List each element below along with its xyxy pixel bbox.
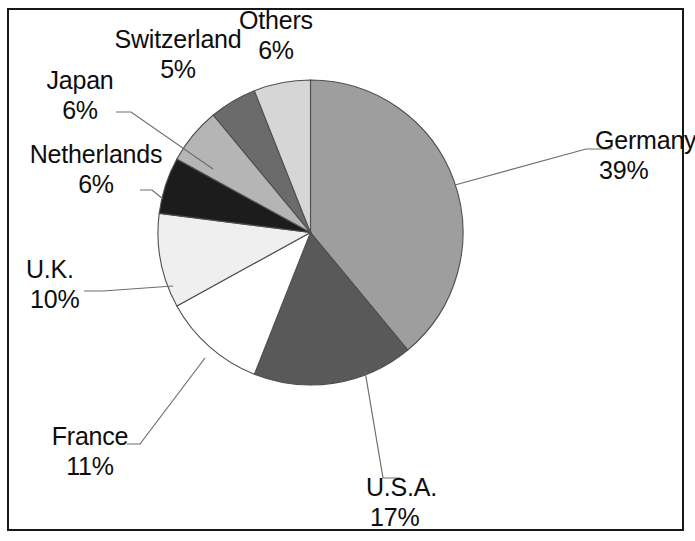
pie-label-usa-name: U.S.A. [366, 473, 437, 503]
pie-label-france-name: France [44, 422, 136, 452]
pie-label-netherlands-name: Netherlands [24, 140, 168, 170]
pie-label-usa-percent: 17% [366, 503, 437, 533]
pie-label-netherlands: Netherlands 6% [24, 140, 168, 199]
pie-label-uk-name: U.K. [26, 255, 79, 285]
pie-label-others-name: Others [230, 6, 322, 36]
pie-label-france: France 11% [44, 422, 136, 481]
pie-label-others-percent: 6% [230, 36, 322, 66]
leader-line-uk [84, 286, 173, 291]
chart-page: Germany 39% U.S.A. 17% France 11% U.K. 1… [0, 0, 695, 541]
pie-label-others: Others 6% [230, 6, 322, 65]
pie-label-france-percent: 11% [44, 452, 136, 482]
leader-line-germany [455, 149, 612, 185]
pie-label-germany-percent: 39% [595, 156, 695, 186]
pie-label-japan-percent: 6% [32, 96, 128, 126]
pie-label-usa: U.S.A. 17% [366, 473, 437, 532]
pie-label-uk-percent: 10% [26, 285, 79, 315]
pie-slices [158, 80, 463, 385]
pie-label-netherlands-percent: 6% [24, 170, 168, 200]
pie-label-germany-name: Germany [595, 126, 695, 156]
pie-label-germany: Germany 39% [595, 126, 695, 185]
leader-line-usa [365, 371, 400, 478]
leader-line-france [127, 358, 205, 444]
pie-label-uk: U.K. 10% [26, 255, 79, 314]
